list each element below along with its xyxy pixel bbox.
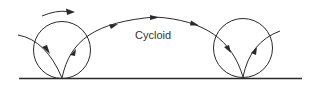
diagram-svg [0,0,318,86]
cycloid-label: Cycloid [135,30,171,41]
incoming-cycloid-curve [18,35,62,78]
cycloid-diagram: Cycloid [0,0,318,86]
arch-arrow-2-head-icon [150,15,159,20]
rotation-arrow-head-icon [66,9,75,16]
incoming-arrow-head-icon [42,45,50,54]
right-rolling-circle [214,19,273,78]
left-rolling-circle [34,22,91,79]
arch-start-arrow-head-icon [70,49,76,56]
cycloid-arch [62,17,243,78]
outgoing-cycloid-curve [243,31,280,77]
rotation-arrow [42,11,68,16]
arch-end-arrow-head-icon [224,45,231,53]
arch-arrow-1-head-icon [109,24,118,29]
arch-arrow-3-head-icon [190,21,199,26]
